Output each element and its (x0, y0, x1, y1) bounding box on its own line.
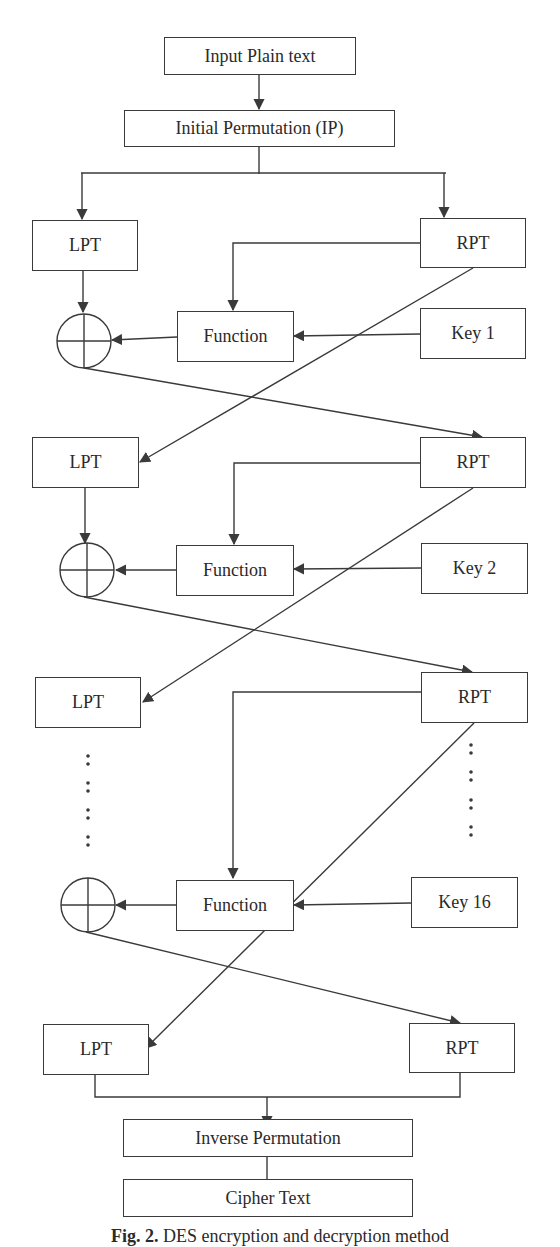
round3-rpt-box: RPT (421, 672, 528, 723)
inverse-permutation-box: Inverse Permutation (123, 1119, 413, 1157)
final-lpt-label: LPT (80, 1039, 112, 1060)
round3-rpt-label: RPT (458, 687, 491, 708)
round16-function-label: Function (203, 895, 267, 916)
caption-label: Fig. 2. (111, 1226, 159, 1246)
inverse-permutation-label: Inverse Permutation (195, 1128, 340, 1149)
round1-rpt-box: RPT (420, 218, 526, 268)
round1-lpt-box: LPT (32, 220, 138, 271)
final-rpt-label: RPT (445, 1038, 478, 1059)
round2-rpt-box: RPT (420, 437, 526, 488)
final-lpt-box: LPT (43, 1024, 149, 1075)
round16-key-box: Key 16 (411, 877, 518, 928)
round2-rpt-label: RPT (456, 452, 489, 473)
round2-lpt-label: LPT (69, 452, 101, 473)
round2-function-label: Function (203, 560, 267, 581)
round1-key-label: Key 1 (451, 323, 495, 344)
cipher-text-label: Cipher Text (226, 1188, 311, 1209)
input-plaintext-label: Input Plain text (205, 46, 316, 67)
round1-rpt-label: RPT (456, 233, 489, 254)
round16-function-box: Function (176, 880, 294, 931)
figure-caption: Fig. 2. DES encryption and decryption me… (0, 1226, 560, 1247)
round2-lpt-box: LPT (32, 437, 139, 488)
continuation-dots (86, 743, 473, 847)
round1-key-box: Key 1 (420, 308, 526, 359)
initial-permutation-label: Initial Permutation (IP) (176, 118, 344, 139)
final-rpt-box: RPT (409, 1023, 515, 1073)
initial-permutation-box: Initial Permutation (IP) (124, 110, 395, 147)
round1-lpt-label: LPT (69, 235, 101, 256)
round3-lpt-label: LPT (72, 692, 104, 713)
round1-function-label: Function (203, 326, 267, 347)
round3-lpt-box: LPT (35, 677, 141, 728)
round16-key-label: Key 16 (438, 892, 491, 913)
caption-text: DES encryption and decryption method (163, 1226, 449, 1246)
input-plaintext-box: Input Plain text (164, 37, 356, 75)
round2-key-box: Key 2 (421, 543, 528, 594)
round1-function-box: Function (177, 311, 294, 362)
round2-function-box: Function (176, 545, 294, 596)
round2-key-label: Key 2 (453, 558, 497, 579)
cipher-text-box: Cipher Text (123, 1179, 413, 1217)
